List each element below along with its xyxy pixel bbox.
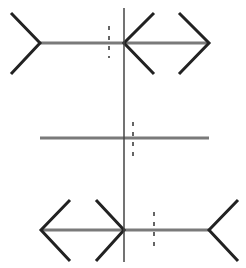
bottom-row — [41, 200, 238, 261]
top-row — [11, 13, 209, 74]
left-fin-out — [11, 13, 40, 74]
right-fin-out — [209, 200, 238, 261]
muller-lyer-diagram — [0, 0, 246, 268]
